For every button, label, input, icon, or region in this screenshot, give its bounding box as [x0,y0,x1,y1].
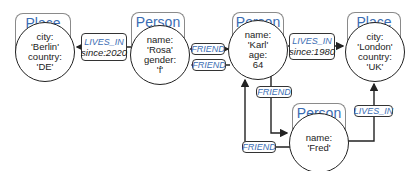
prop-value: 'f' [157,65,163,75]
prop-value: 64 [253,60,264,70]
edge-label-karl-friend-fred[interactable]: FRIEND [256,86,292,98]
relationship-type: LIVES_IN [292,36,332,46]
node-london[interactable]: city: 'London' country: 'UK' [345,22,405,82]
relationship-type: FRIEND [242,142,276,152]
relationship-type: FRIEND [257,87,291,97]
node-fred[interactable]: name: 'Fred' [289,113,349,171]
edge-label-rosa-friend-karl[interactable]: FRIEND [191,43,225,55]
edge-label-fred-friend-karl[interactable]: FRIEND [242,141,276,153]
node-karl[interactable]: name: 'Karl' age: 64 [228,20,288,80]
relationship-prop: since:2020 [81,47,127,58]
prop-value: 'Fred' [307,143,330,153]
edge-label-karl-friend-rosa[interactable]: FRIEND [192,59,226,71]
prop-value: 'DE' [37,62,54,72]
edge-label-karl-lives-in[interactable]: LIVES_IN since:1980 [289,33,335,60]
relationship-type: FRIEND [192,60,226,70]
relationship-prop: since:1980 [289,46,335,57]
node-berlin[interactable]: city: 'Berlin' country: 'DE' [15,22,75,82]
edge-label-rosa-lives-in[interactable]: LIVES_IN since:2020 [81,33,127,61]
prop-value: 'UK' [367,62,384,72]
relationship-type: LIVES_IN [84,37,124,47]
node-rosa[interactable]: name: 'Rosa' gender: 'f' [130,25,190,85]
relationship-type: FRIEND [191,44,225,54]
edge-label-fred-lives-in[interactable]: LIVES_IN [354,105,393,117]
relationship-type: LIVES_IN [354,106,394,116]
edge-karl-friend-fred [271,76,287,133]
